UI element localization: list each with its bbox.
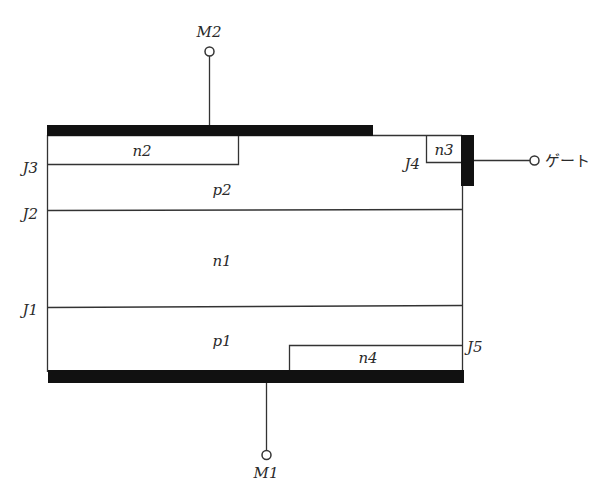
gate-electrode — [461, 135, 474, 186]
bottom-electrode — [48, 370, 464, 383]
thyristor-structure-diagram: M2 M1 ゲート n2 n3 p2 n1 p1 n4 J3 J2 J1 J4 … — [0, 0, 609, 495]
junction-j2-line — [47, 210, 462, 211]
n2-label: n2 — [132, 142, 151, 160]
j5-label: J5 — [464, 338, 483, 356]
m1-label: M1 — [253, 464, 279, 482]
m1-terminal-icon — [262, 451, 271, 460]
j3-label: J3 — [19, 159, 38, 177]
n3-label: n3 — [434, 141, 453, 159]
m2-terminal-icon — [205, 47, 214, 56]
j2-label: J2 — [19, 205, 38, 223]
j1-label: J1 — [19, 301, 38, 319]
m2-label: M2 — [196, 23, 222, 41]
j4-label: J4 — [401, 155, 420, 173]
n4-label: n4 — [358, 349, 377, 367]
junction-j1-line — [47, 306, 462, 308]
p1-label: p1 — [212, 332, 231, 350]
gate-terminal-icon — [530, 156, 539, 165]
top-electrode — [47, 125, 373, 136]
gate-label: ゲート — [545, 152, 590, 170]
p2-label: p2 — [212, 181, 231, 199]
n1-label: n1 — [212, 252, 231, 270]
